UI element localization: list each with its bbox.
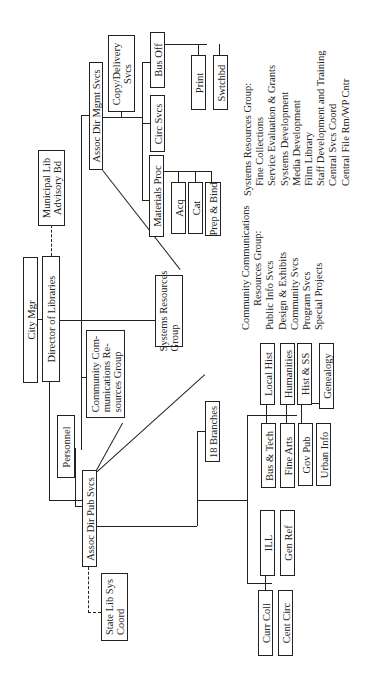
node-ill: ILL (260, 510, 275, 576)
connector (103, 117, 121, 118)
node-label: Bus Off (152, 43, 163, 76)
connector (142, 123, 150, 124)
node-bus-off: Bus Off (150, 32, 165, 88)
legend-item: Community Svcs (289, 205, 301, 330)
connector (195, 171, 196, 182)
connector (266, 415, 267, 423)
node-cent-circ: Cent Circ (278, 590, 293, 656)
node-label: Personnel (61, 426, 72, 467)
node-humanities: Humanities (280, 343, 295, 405)
connector (142, 62, 150, 63)
connector (49, 500, 82, 501)
node-label: Copy/Delivery (111, 42, 122, 104)
node-fine-arts: Fine Arts (280, 423, 295, 488)
node-label: Swtchbd (215, 64, 226, 101)
connector (265, 575, 266, 591)
node-label: Systems Resources (158, 271, 169, 352)
connector (197, 431, 205, 432)
node-label: Acq (173, 199, 184, 217)
node-curr-coll: Curr Coll (258, 590, 273, 656)
dashed-connector (88, 567, 89, 613)
node-label: munications Re- (100, 336, 111, 413)
connector (165, 44, 207, 45)
node-materials-proc: Materials Proc (149, 155, 164, 237)
node-label: Materials Proc (151, 165, 162, 227)
connector (219, 44, 220, 55)
node-label: State Lib Sys (104, 579, 115, 635)
node-label: Hist & SS (299, 353, 310, 396)
connector (301, 405, 302, 415)
connector (311, 403, 319, 404)
node-genealogy: Genealogy (319, 343, 334, 409)
node-label: Circ Svcs (152, 103, 163, 144)
node-community-communications-resources-group: Community Com-munications Re-sources Gro… (86, 330, 125, 418)
node-cat: Cat (188, 182, 203, 234)
node-assoc-dir-mgmt-svcs: Assoc Dir Mgmt Svcs (89, 62, 103, 170)
diagonal-connector (96, 423, 123, 471)
legend-item: Service Evaluation & Grants (266, 51, 278, 196)
node-label: Gen Ref (282, 525, 293, 560)
dashed-connector (88, 612, 101, 613)
connector (121, 117, 142, 118)
node-label: Cent Circ (280, 603, 291, 644)
node-gov-pub: Gov Pub (298, 423, 313, 486)
legend-title: Community Communications (240, 205, 252, 330)
connector (247, 415, 248, 583)
node-label: Bus & Tech (263, 431, 274, 481)
node-prep-bind: Prep & Bind (205, 182, 221, 236)
connector (198, 44, 199, 55)
connector (75, 448, 76, 506)
connector (178, 171, 179, 182)
legend-item: Program Svcs (301, 205, 313, 330)
connector (49, 382, 50, 500)
node-label: sources Group (111, 336, 122, 413)
node-label: Assoc Dir Mgmt Svcs (91, 69, 102, 162)
node-assoc-dir-pub-svcs: Assoc Dir Pub Svcs (82, 470, 97, 567)
node-acq: Acq (171, 182, 186, 234)
node-municipal-lib-advisory-bd: Municipal LibAdvisory Bd (38, 150, 65, 226)
node-label: Gov Pub (300, 436, 311, 473)
node-label: Coord (115, 579, 126, 635)
node-label: Print (193, 72, 204, 92)
node-label: Genealogy (321, 353, 332, 398)
legend-item: Media Development (291, 51, 303, 196)
legend-item: Public Info Svcs (264, 205, 276, 330)
legend-item: Film Library (303, 51, 315, 196)
connector (301, 415, 302, 423)
connector (266, 405, 267, 415)
connector (286, 405, 287, 415)
connector (142, 62, 143, 201)
node-label: ILL (262, 535, 273, 551)
legend-item: Systems Development (279, 51, 291, 196)
connector (247, 583, 272, 584)
legend-community-communications: Community Communications Resources Group… (240, 205, 325, 330)
node-circ-svcs: Circ Svcs (150, 95, 165, 152)
legend-title: Resources Group: (252, 205, 264, 330)
node-gen-ref: Gen Ref (280, 510, 295, 576)
connector (142, 200, 149, 201)
connector (96, 526, 197, 527)
legend-item: Staff Development and Training (315, 51, 327, 196)
node-label: 18 Branches (207, 405, 218, 457)
legend-systems-resources: Systems Resources Group: Fine Collection… (242, 51, 352, 196)
connector (81, 115, 82, 450)
node-label: Municipal Lib (41, 158, 52, 218)
connector (163, 171, 211, 172)
legend-title: Systems Resources Group: (242, 51, 254, 196)
node-systems-resources-group: Systems ResourcesGroup (155, 275, 183, 347)
connector (197, 431, 198, 500)
legend-item: Central Svcs Coord (327, 51, 339, 196)
node-personnel: Personnel (57, 415, 75, 478)
connector (197, 500, 198, 526)
legend-item: Central File Rm/WP Cntr (340, 51, 352, 196)
node-label: Fine Arts (282, 436, 293, 475)
node-label: Cat (190, 201, 201, 216)
connector (247, 415, 297, 416)
node-urban-info: Urban Info (316, 423, 331, 486)
node-label: Director of Libraries (46, 276, 57, 363)
node-label: City Mgr (25, 301, 36, 340)
node-18-branches: 18 Branches (205, 401, 220, 462)
node-label: Assoc Dir Pub Svcs (84, 477, 95, 561)
connector (81, 115, 89, 116)
dashed-connector (51, 225, 52, 256)
